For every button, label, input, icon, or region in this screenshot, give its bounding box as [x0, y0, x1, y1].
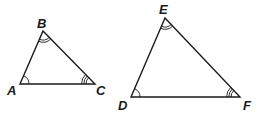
vertex-label-c: C: [96, 83, 106, 98]
vertex-label-e: E: [159, 2, 168, 17]
angle-arc: [135, 89, 140, 97]
angle-arc: [86, 78, 89, 84]
vertex-label-d: D: [118, 98, 128, 113]
angle-arc: [231, 90, 234, 97]
triangle-abc: A B C: [6, 16, 106, 98]
vertex-label-b: B: [37, 16, 46, 31]
angle-arc: [39, 37, 49, 40]
angle-d-marks: [135, 89, 140, 97]
angle-arc: [161, 25, 171, 27]
angle-a-marks: [24, 76, 29, 84]
angle-arc: [24, 76, 29, 84]
triangle-def: D E F: [118, 2, 252, 113]
triangle-def-outline: [131, 18, 240, 97]
similar-triangles-diagram: A B C D E F: [0, 0, 258, 120]
vertex-label-a: A: [6, 83, 16, 98]
vertex-label-f: F: [243, 98, 252, 113]
